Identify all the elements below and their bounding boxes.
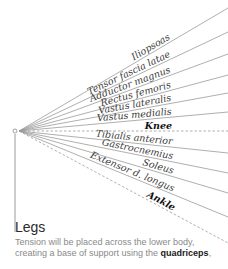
origin-node-icon <box>13 129 17 133</box>
description-emphasis: quadriceps <box>161 248 209 258</box>
section-description: Tension will be placed across the lower … <box>15 237 228 259</box>
description-suffix: , <box>209 248 212 258</box>
ray-lines <box>19 8 228 243</box>
legs-section: Legs Tension will be placed across the l… <box>15 219 228 259</box>
ray-label: Knee <box>144 120 172 131</box>
section-title: Legs <box>15 219 228 235</box>
ray-labels: IliopsoasTensor fascia lataeAdductor mag… <box>85 31 177 213</box>
